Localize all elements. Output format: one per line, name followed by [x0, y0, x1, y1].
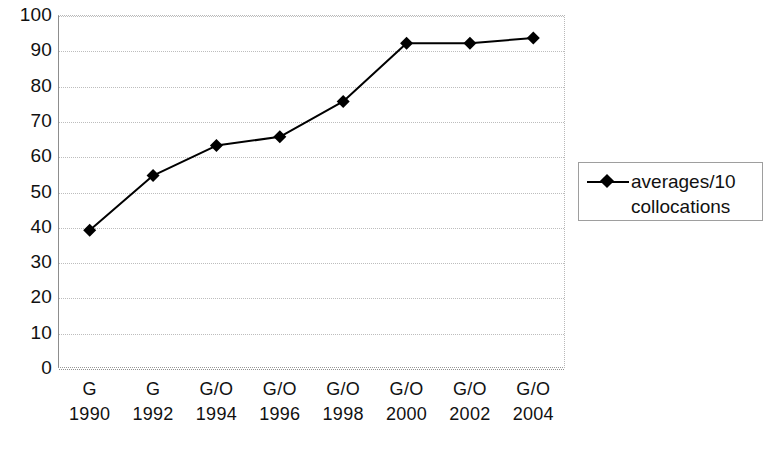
y-tick-label: 10 — [6, 323, 52, 342]
series-averages-per-10-collocations — [58, 15, 565, 368]
y-tick-label: 100 — [6, 5, 52, 24]
x-tick-label-year: 2004 — [496, 402, 570, 427]
data-point-marker — [527, 31, 540, 44]
x-tick-label-top: G/O — [496, 377, 570, 402]
gridline — [59, 369, 564, 370]
data-point-marker — [463, 37, 476, 50]
data-point-marker — [273, 130, 286, 143]
x-tick-label: G/O2004 — [496, 377, 570, 427]
y-tick-label: 80 — [6, 76, 52, 95]
line-chart: 1009080706050403020100 G1990G1992G/O1994… — [0, 0, 767, 455]
y-tick-label: 40 — [6, 217, 52, 236]
series-line — [90, 38, 534, 230]
diamond-marker-icon — [600, 174, 614, 188]
y-tick-label: 30 — [6, 252, 52, 271]
y-tick-label: 0 — [6, 358, 52, 377]
y-tick-label: 50 — [6, 182, 52, 201]
y-tick-label: 70 — [6, 111, 52, 130]
legend: averages/10 collocations — [578, 162, 763, 221]
y-axis-tick-labels: 1009080706050403020100 — [0, 0, 52, 455]
y-tick-label: 90 — [6, 40, 52, 59]
legend-label-line1: averages/10 — [631, 169, 736, 194]
x-axis-tick-labels: G1990G1992G/O1994G/O1996G/O1998G/O2000G/… — [58, 377, 565, 447]
legend-label-line2: collocations — [631, 194, 736, 219]
legend-label: averages/10 collocations — [631, 169, 736, 219]
legend-marker-icon — [585, 170, 631, 194]
y-tick-label: 20 — [6, 287, 52, 306]
data-point-marker — [210, 139, 223, 152]
y-tick-label: 60 — [6, 146, 52, 165]
